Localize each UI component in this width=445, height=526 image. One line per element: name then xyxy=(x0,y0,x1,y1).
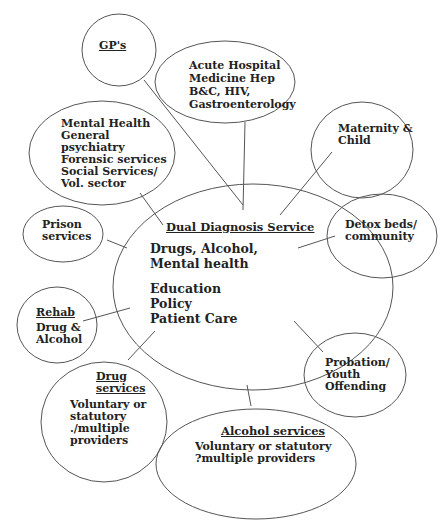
center-line: Policy xyxy=(150,296,314,311)
node-detox-line: community xyxy=(345,231,417,243)
node-prison-line: services xyxy=(42,231,91,243)
center-line: Drugs, Alcohol, xyxy=(150,241,314,256)
node-maternity: Maternity & Child xyxy=(338,123,413,147)
node-mental-line: Vol. sector xyxy=(61,178,167,190)
node-acute: Acute Hospital Medicine Hep B&C, HIV, Ga… xyxy=(189,59,296,111)
node-center: Dual Diagnosis Service Drugs, Alcohol, M… xyxy=(150,221,314,326)
node-drug-title: services xyxy=(96,383,146,395)
center-line: Patient Care xyxy=(150,311,314,326)
center-title: Dual Diagnosis Service xyxy=(166,221,314,233)
node-mental: Mental Health General psychiatry Forensi… xyxy=(61,118,167,190)
node-probation: Probation/ Youth Offending xyxy=(325,357,390,393)
node-detox: Detox beds/ community xyxy=(345,219,417,243)
connector-alcohol xyxy=(247,385,251,406)
node-alcohol-title: Alcohol services xyxy=(221,425,331,437)
node-acute-line: B&C, HIV, xyxy=(189,85,296,98)
node-acute-line: Gastroenterology xyxy=(189,98,296,111)
node-maternity-shape xyxy=(311,102,413,198)
node-maternity-line: Child xyxy=(338,135,413,147)
node-acute-line: Acute Hospital xyxy=(189,59,296,72)
node-rehab: Rehab Drug & Alcohol xyxy=(36,307,82,346)
node-rehab-title: Rehab xyxy=(36,307,82,319)
node-acute-line: Medicine Hep xyxy=(189,72,296,85)
node-gps-title: GP's xyxy=(99,40,126,52)
node-prison: Prison services xyxy=(42,219,91,243)
node-rehab-line: Alcohol xyxy=(36,334,82,346)
node-drug-line: providers xyxy=(70,435,146,447)
node-drug: Drug services Voluntary or statutory ./m… xyxy=(70,371,146,447)
center-line: Mental health xyxy=(150,256,314,271)
connector-acute xyxy=(243,122,245,210)
connector-drug xyxy=(128,331,155,360)
connector-maternity xyxy=(280,152,332,215)
connector-rehab xyxy=(83,308,130,321)
center-line: Education xyxy=(150,281,314,296)
node-alcohol-line: ?multiple providers xyxy=(195,453,331,465)
node-probation-line: Offending xyxy=(325,381,390,393)
node-alcohol: Alcohol services Voluntary or statutory … xyxy=(195,425,331,465)
node-gps: GP's xyxy=(99,40,126,52)
